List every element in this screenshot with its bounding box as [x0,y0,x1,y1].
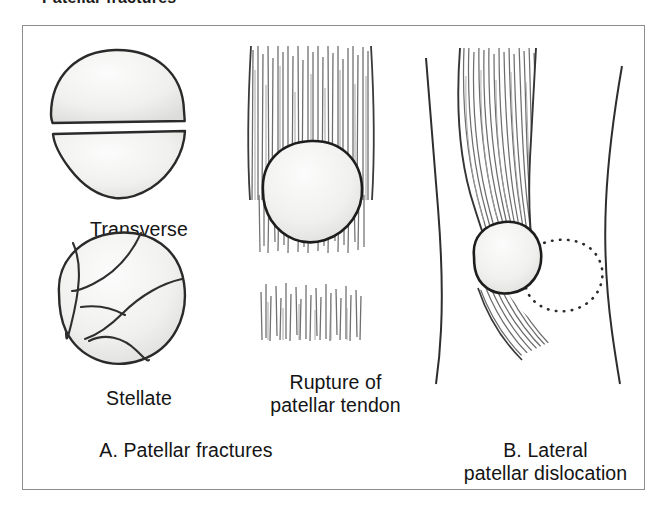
illustration-stellate-fracture [45,221,220,376]
inferior-fragment [53,131,185,198]
caption-panel-a: A. Patellar fractures [41,439,331,462]
patella [474,222,541,294]
patella [263,141,362,242]
label-stellate: Stellate [59,387,219,410]
caption-panel-b: B. Lateral patellar dislocation [418,439,672,485]
superior-fragment [51,50,185,123]
illustration-transverse-fracture [43,41,218,206]
illustration-tendon-rupture [225,40,415,360]
patellar-tendon [480,286,551,358]
patella-outline [59,232,185,363]
page-title: Patellar fractures [42,0,176,7]
leg-contour-medial [426,58,442,384]
torn-tendon-distal-stump [261,283,361,341]
leg-contour-lateral [605,66,622,384]
illustration-lateral-dislocation [408,40,643,390]
figure-frame: Transverse Stellate [22,25,645,490]
